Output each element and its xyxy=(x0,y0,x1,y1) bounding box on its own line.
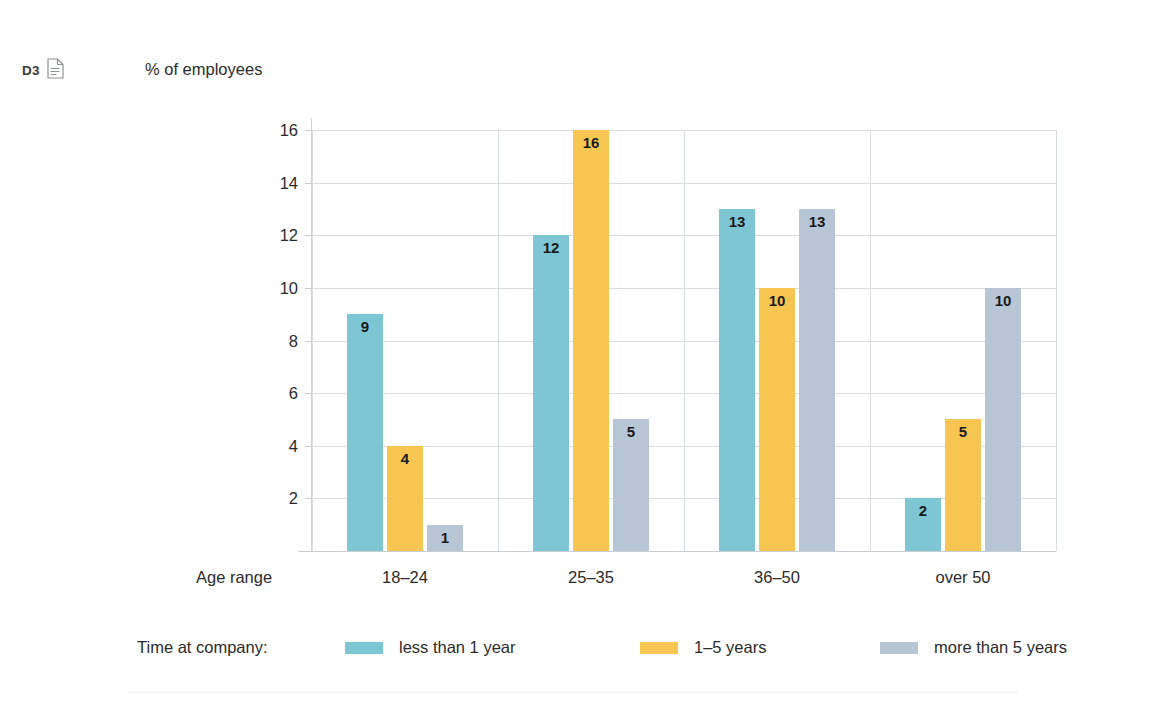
bar-group: 12165 xyxy=(533,130,649,551)
category-separator xyxy=(498,130,499,551)
y-axis-tick-label: 16 xyxy=(280,121,298,140)
document-icon xyxy=(47,58,64,83)
bar-value-label: 13 xyxy=(799,214,835,229)
bar[interactable]: 4 xyxy=(387,446,423,551)
bar-value-label: 2 xyxy=(905,503,941,518)
bar[interactable]: 10 xyxy=(759,288,795,551)
bar-value-label: 10 xyxy=(759,293,795,308)
bar-value-label: 9 xyxy=(347,319,383,334)
y-axis-tick-label: 2 xyxy=(289,489,298,508)
page-title-clip: Employee survey: age groups xyxy=(0,0,1149,4)
question-tag-label: D3 xyxy=(22,63,40,78)
legend-item-label: 1–5 years xyxy=(694,638,766,657)
bar[interactable]: 12 xyxy=(533,235,569,551)
bar[interactable]: 5 xyxy=(945,419,981,551)
legend-color-swatch xyxy=(880,642,918,654)
bar[interactable]: 1 xyxy=(427,525,463,551)
y-axis-tick-label: 8 xyxy=(289,331,298,350)
bar[interactable]: 9 xyxy=(347,314,383,551)
x-axis-category-label: 18–24 xyxy=(382,568,428,587)
y-axis-tick-mark xyxy=(305,183,312,184)
y-axis-tick-label: 6 xyxy=(289,384,298,403)
category-separator xyxy=(312,130,313,551)
bar[interactable]: 13 xyxy=(799,209,835,551)
x-axis-labels: Age range 18–2425–3536–50over 50 xyxy=(0,568,1149,592)
category-separator xyxy=(870,130,871,551)
bar-value-label: 12 xyxy=(533,240,569,255)
y-axis-tick-mark xyxy=(305,446,312,447)
bar-value-label: 16 xyxy=(573,135,609,150)
category-separator xyxy=(1056,130,1057,551)
legend-item[interactable]: more than 5 years xyxy=(880,638,1067,657)
bar-value-label: 4 xyxy=(387,451,423,466)
footer-divider xyxy=(128,692,1018,693)
y-axis-tick-labels: 246810121416 xyxy=(252,130,298,551)
chart-legend: Time at company: less than 1 year1–5 yea… xyxy=(0,638,1149,664)
bar-group: 2510 xyxy=(905,130,1021,551)
bar-value-label: 13 xyxy=(719,214,755,229)
bar-value-label: 10 xyxy=(985,293,1021,308)
bar-value-label: 5 xyxy=(613,424,649,439)
y-axis-tick-label: 4 xyxy=(289,436,298,455)
y-axis-tick-label: 12 xyxy=(280,226,298,245)
x-axis-category-label: 36–50 xyxy=(754,568,800,587)
bar-group: 131013 xyxy=(719,130,835,551)
y-axis-title: % of employees xyxy=(145,60,262,79)
y-axis-tick-mark xyxy=(305,130,312,131)
legend-color-swatch xyxy=(345,642,383,654)
legend-item-label: less than 1 year xyxy=(399,638,515,657)
bar-value-label: 1 xyxy=(427,530,463,545)
y-axis-tick-label: 14 xyxy=(280,173,298,192)
bar-group: 941 xyxy=(347,130,463,551)
legend-color-swatch xyxy=(640,642,678,654)
plot-area: 941121651310132510 xyxy=(312,130,1056,551)
legend-item-label: more than 5 years xyxy=(934,638,1067,657)
y-axis-tick-mark xyxy=(305,498,312,499)
bar-value-label: 5 xyxy=(945,424,981,439)
y-axis-tick-mark xyxy=(305,393,312,394)
y-axis-tick-mark xyxy=(305,341,312,342)
category-separator xyxy=(684,130,685,551)
x-axis-category-label: over 50 xyxy=(935,568,990,587)
x-axis-category-label: 25–35 xyxy=(568,568,614,587)
bar-chart: 941121651310132510 246810121416 xyxy=(312,130,1056,551)
bar[interactable]: 16 xyxy=(573,130,609,551)
y-axis-tick-label: 10 xyxy=(280,278,298,297)
legend-item[interactable]: 1–5 years xyxy=(640,638,766,657)
bar[interactable]: 5 xyxy=(613,419,649,551)
x-axis-title: Age range xyxy=(196,568,272,587)
legend-item[interactable]: less than 1 year xyxy=(345,638,515,657)
bar[interactable]: 10 xyxy=(985,288,1021,551)
bar[interactable]: 2 xyxy=(905,498,941,551)
legend-title: Time at company: xyxy=(137,638,268,657)
y-axis-tick-mark xyxy=(305,288,312,289)
x-axis-baseline xyxy=(298,551,1056,552)
question-tag: D3 xyxy=(22,58,64,83)
bar[interactable]: 13 xyxy=(719,209,755,551)
y-axis-tick-mark xyxy=(305,235,312,236)
